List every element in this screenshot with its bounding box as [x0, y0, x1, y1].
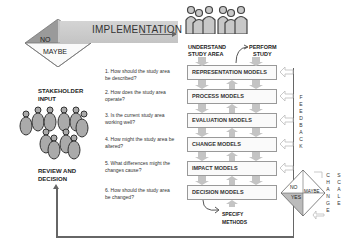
question-4: 4. How might the study area be altered? — [105, 136, 175, 149]
question-6: 6. How should the study area be changed? — [105, 187, 175, 200]
specify-label-1: SPECIFY — [222, 211, 243, 217]
understand-label-1: UNDERSTAND — [188, 44, 226, 50]
implementation-arrow-line — [140, 34, 176, 35]
feedback-arrows-icon — [279, 66, 294, 176]
return-loop-left — [56, 188, 58, 237]
question-5: 5. What differences might the changes ca… — [105, 160, 175, 173]
perform-label-1: PERFORM — [249, 44, 277, 50]
question-3: 3. Is the current study area working wel… — [105, 112, 175, 125]
question-2: 2. How does the study area operate? — [105, 89, 175, 102]
review-label-1: REVIEW AND — [38, 168, 76, 174]
stakeholder-label-2: INPUT — [38, 96, 56, 102]
stakeholder-circle-icon — [18, 106, 90, 160]
change-label: CHANGE — [324, 172, 332, 214]
question-1: 1. How should the study area be describe… — [105, 68, 175, 81]
scale-label: SCALE — [335, 172, 343, 207]
implementation-arrowhead-icon — [172, 31, 177, 37]
return-arrowhead-icon — [53, 184, 59, 189]
right-diamond-yes: YES — [291, 194, 301, 200]
flow-arrows-icon — [187, 57, 277, 207]
specify-arrow-icon — [201, 200, 221, 216]
review-label-2: DECISION — [38, 176, 67, 182]
left-diamond-maybe: MAYBE — [43, 48, 67, 55]
stakeholder-label-1: STAKEHOLDER — [38, 88, 83, 94]
left-diamond-no: NO — [40, 36, 51, 43]
feedback-label: FEEDBACK — [297, 94, 305, 150]
right-diamond-no: NO — [290, 184, 298, 190]
people-group-icon — [185, 4, 255, 34]
return-loop-bottom — [56, 236, 294, 238]
specify-label-2: METHODS — [222, 219, 247, 225]
